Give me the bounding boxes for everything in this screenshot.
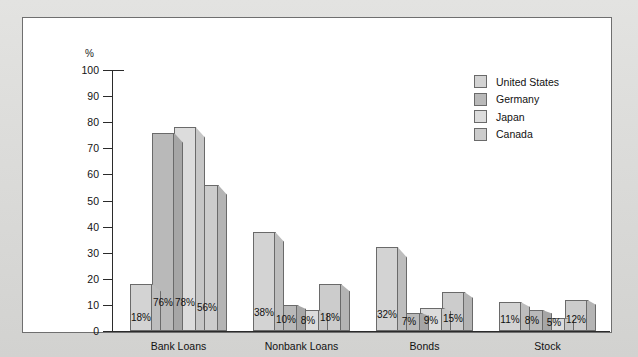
legend-swatch-icon-2 xyxy=(474,110,487,123)
y-tick-mark-20 xyxy=(103,279,112,280)
bar-value-label-1-1: 10% xyxy=(275,314,297,325)
bar-value-label-1-3: 18% xyxy=(319,312,341,323)
legend-swatch-icon-1 xyxy=(474,93,487,106)
y-tick-label-0: 0 xyxy=(63,325,99,337)
y-axis-unit-label: % xyxy=(85,48,94,59)
legend-item-1[interactable]: Germany xyxy=(474,91,559,109)
y-tick-label-10: 10 xyxy=(63,299,99,311)
y-tick-label-80: 80 xyxy=(63,116,99,128)
legend-label-2: Japan xyxy=(496,111,525,123)
y-tick-mark-30 xyxy=(103,253,112,254)
bar-value-label-3-1: 8% xyxy=(521,315,543,326)
bar-value-label-3-3: 12% xyxy=(565,314,587,325)
bar-0-0 xyxy=(130,284,152,331)
y-tick-mark-60 xyxy=(103,174,112,175)
bar-value-label-0-0: 18% xyxy=(130,312,152,323)
legend-item-2[interactable]: Japan xyxy=(474,108,559,126)
y-tick-label-50: 50 xyxy=(63,195,99,207)
bar-side-2-3 xyxy=(464,292,473,331)
bar-value-label-3-0: 11% xyxy=(499,314,521,325)
category-label-3: Stock xyxy=(534,340,560,352)
category-label-1: Nonbank Loans xyxy=(265,340,339,352)
bar-value-label-0-1: 76% xyxy=(152,297,174,308)
y-tick-mark-90 xyxy=(103,96,112,97)
chart-legend: United StatesGermanyJapanCanada xyxy=(474,73,559,143)
y-tick-label-20: 20 xyxy=(63,273,99,285)
category-label-0: Bank Loans xyxy=(151,340,206,352)
y-tick-label-30: 30 xyxy=(63,247,99,259)
x-axis-line xyxy=(112,331,610,332)
bar-value-label-3-2: 5% xyxy=(543,317,565,328)
y-tick-label-90: 90 xyxy=(63,90,99,102)
bar-value-label-0-3: 56% xyxy=(196,302,218,313)
y-tick-mark-80 xyxy=(103,122,112,123)
bar-value-label-2-1: 7% xyxy=(398,316,420,327)
bar-side-0-3 xyxy=(218,185,227,331)
bar-side-0-2 xyxy=(196,127,205,331)
y-tick-label-40: 40 xyxy=(63,221,99,233)
bar-value-label-2-0: 32% xyxy=(376,309,398,320)
chart-plate: % 1009080706050403020100 18%76%78%56%38%… xyxy=(22,17,612,333)
category-label-2: Bonds xyxy=(410,340,440,352)
bar-side-1-3 xyxy=(341,284,350,331)
y-tick-mark-40 xyxy=(103,227,112,228)
y-tick-label-70: 70 xyxy=(63,142,99,154)
y-tick-label-60: 60 xyxy=(63,168,99,180)
legend-swatch-icon-3 xyxy=(474,128,487,141)
legend-swatch-icon-0 xyxy=(474,75,487,88)
y-tick-mark-10 xyxy=(103,305,112,306)
legend-item-3[interactable]: Canada xyxy=(474,126,559,144)
bar-side-3-3 xyxy=(587,300,596,331)
legend-label-0: United States xyxy=(496,76,559,88)
bar-value-label-0-2: 78% xyxy=(174,297,196,308)
legend-label-3: Canada xyxy=(496,128,533,140)
y-tick-mark-100 xyxy=(103,70,112,71)
legend-item-0[interactable]: United States xyxy=(474,73,559,91)
bar-value-label-2-2: 9% xyxy=(420,315,442,326)
y-tick-mark-70 xyxy=(103,148,112,149)
figure-frame: % 1009080706050403020100 18%76%78%56%38%… xyxy=(0,0,638,357)
bar-value-label-1-2: 8% xyxy=(297,315,319,326)
y-tick-mark-50 xyxy=(103,201,112,202)
bar-value-label-2-3: 15% xyxy=(442,313,464,324)
y-tick-label-100: 100 xyxy=(63,64,99,76)
bar-value-label-1-0: 38% xyxy=(253,307,275,318)
legend-label-1: Germany xyxy=(496,93,539,105)
y-tick-mark-0 xyxy=(103,331,112,332)
